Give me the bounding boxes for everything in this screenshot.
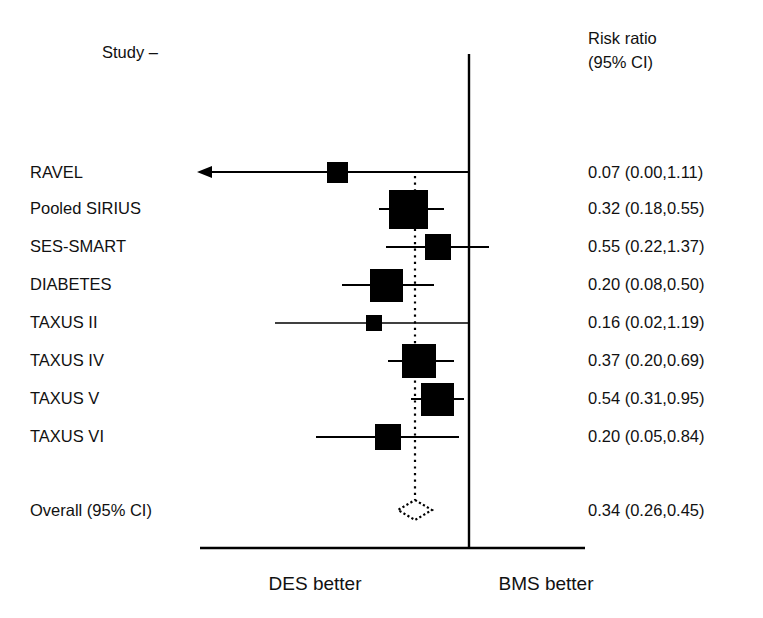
column-header-study: Study –	[102, 43, 159, 61]
effect-marker	[366, 315, 382, 331]
axis-label-right: BMS better	[498, 573, 594, 594]
effect-value: 0.20 (0.05,0.84)	[588, 427, 705, 445]
forest-row: TAXUS VI 0.20 (0.05,0.84)	[30, 424, 705, 450]
effect-marker	[402, 344, 436, 378]
overall-summary-row: Overall (95% CI) 0.34 (0.26,0.45)	[30, 500, 705, 520]
effect-value: 0.55 (0.22,1.37)	[588, 237, 705, 255]
overall-effect-value: 0.34 (0.26,0.45)	[588, 501, 705, 519]
effect-marker	[389, 190, 428, 229]
study-label: SES-SMART	[30, 237, 126, 255]
column-header-effect-line2: (95% CI)	[588, 53, 653, 71]
ci-truncation-arrow-icon	[197, 166, 212, 178]
study-label: Pooled SIRIUS	[30, 199, 141, 217]
overall-diamond-marker	[398, 500, 432, 520]
forest-row: TAXUS IV 0.37 (0.20,0.69)	[30, 344, 705, 378]
effect-value: 0.54 (0.31,0.95)	[588, 389, 705, 407]
forest-row: TAXUS V 0.54 (0.31,0.95)	[30, 383, 705, 416]
column-header-effect-line1: Risk ratio	[588, 29, 657, 47]
effect-marker	[421, 383, 454, 416]
effect-marker	[327, 162, 348, 183]
overall-label: Overall (95% CI)	[30, 501, 152, 519]
study-label: TAXUS V	[30, 389, 99, 407]
effect-value: 0.16 (0.02,1.19)	[588, 313, 705, 331]
study-label: TAXUS II	[30, 313, 98, 331]
forest-plot-canvas: Study – Risk ratio (95% CI) RAVEL 0.07 (…	[0, 0, 763, 618]
effect-value: 0.07 (0.00,1.11)	[588, 163, 703, 181]
effect-value: 0.32 (0.18,0.55)	[588, 199, 705, 217]
study-label: RAVEL	[30, 163, 83, 181]
forest-row: Pooled SIRIUS 0.32 (0.18,0.55)	[30, 190, 705, 229]
effect-value: 0.20 (0.08,0.50)	[588, 275, 705, 293]
effect-value: 0.37 (0.20,0.69)	[588, 351, 705, 369]
effect-marker	[425, 234, 451, 260]
study-label: TAXUS VI	[30, 427, 104, 445]
axis-label-left: DES better	[269, 573, 363, 594]
effect-marker	[375, 424, 401, 450]
forest-row: SES-SMART 0.55 (0.22,1.37)	[30, 234, 705, 260]
study-label: TAXUS IV	[30, 351, 104, 369]
study-label: DIABETES	[30, 275, 112, 293]
forest-row: RAVEL 0.07 (0.00,1.11)	[30, 162, 703, 183]
forest-row: DIABETES 0.20 (0.08,0.50)	[30, 269, 705, 302]
forest-row: TAXUS II 0.16 (0.02,1.19)	[30, 313, 705, 331]
forest-plot-figure: Study – Risk ratio (95% CI) RAVEL 0.07 (…	[0, 0, 763, 618]
effect-marker	[370, 269, 403, 302]
